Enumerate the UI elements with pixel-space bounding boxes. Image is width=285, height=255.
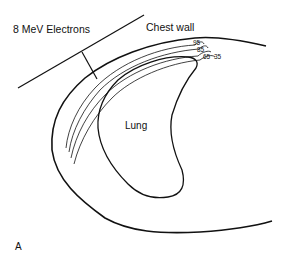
lung-label: Lung: [125, 120, 147, 131]
isodose-lines: [66, 42, 215, 164]
isodose-diagram: 8 MeV Electrons Chest wall Lung A 95 85 …: [0, 0, 285, 255]
isodose-label-65: 65: [203, 53, 210, 60]
isodose-label-35: 35: [214, 53, 221, 60]
isodose-95: [66, 45, 195, 148]
lung-contour: [98, 57, 197, 198]
isodose-label-85: 85: [197, 46, 204, 53]
isodose-65: [71, 56, 198, 158]
beam-energy-label: 8 MeV Electrons: [13, 23, 90, 35]
panel-label: A: [15, 241, 22, 252]
chest-wall-label: Chest wall: [146, 21, 194, 33]
isodose-35: [74, 60, 200, 164]
isodose-label-95: 95: [193, 39, 200, 46]
